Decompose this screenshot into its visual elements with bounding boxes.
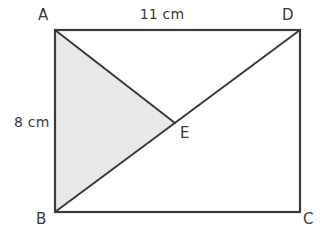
- measurement-label-top: 11 cm: [140, 7, 185, 21]
- vertex-label-d: D: [282, 8, 294, 23]
- geometry-diagram: A D B C E 11 cm 8 cm: [0, 0, 327, 238]
- measurement-label-left: 8 cm: [14, 115, 50, 129]
- vertex-label-b: B: [36, 212, 47, 227]
- shaded-triangle-abe: [55, 30, 175, 212]
- vertex-label-c: C: [303, 212, 314, 227]
- point-label-e: E: [180, 126, 190, 141]
- vertex-label-a: A: [38, 8, 48, 23]
